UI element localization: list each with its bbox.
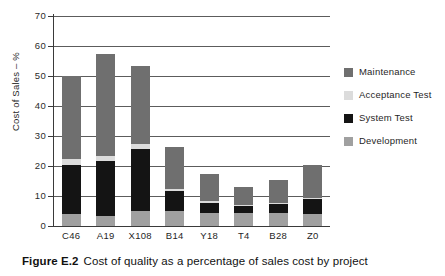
bar-segment-Y18-maintenance[interactable] <box>200 174 219 201</box>
bar-B14[interactable] <box>165 16 184 226</box>
bar-segment-X108-development[interactable] <box>131 211 150 226</box>
legend-label: Development <box>359 136 417 146</box>
bar-Y18[interactable] <box>200 16 219 226</box>
bar-segment-Y18-system-test[interactable] <box>200 203 219 213</box>
legend-label: System Test <box>359 113 413 123</box>
bar-segment-B28-maintenance[interactable] <box>269 180 288 203</box>
legend-swatch-icon <box>344 91 353 100</box>
bar-segment-C46-maintenance[interactable] <box>62 76 81 159</box>
gridline-0 <box>54 226 330 227</box>
bar-segment-A19-system-test[interactable] <box>96 161 115 216</box>
y-tick-label-70: 70 <box>18 11 46 21</box>
bar-segment-Y18-acceptance-test[interactable] <box>200 201 219 203</box>
bars-and-gridlines <box>54 16 330 226</box>
legend-item-maintenance[interactable]: Maintenance <box>344 62 444 82</box>
bar-B28[interactable] <box>269 16 288 226</box>
bar-segment-Z0-development[interactable] <box>303 214 322 226</box>
y-tick-label-40: 40 <box>18 101 46 111</box>
bar-segment-T4-system-test[interactable] <box>234 206 253 213</box>
bar-X108[interactable] <box>131 16 150 226</box>
bar-segment-B14-development[interactable] <box>165 211 184 226</box>
figure-caption: Figure E.2Cost of quality as a percentag… <box>22 254 442 268</box>
legend-item-development[interactable]: Development <box>344 131 444 151</box>
legend-item-system-test[interactable]: System Test <box>344 108 444 128</box>
bar-segment-T4-development[interactable] <box>234 213 253 226</box>
bar-T4[interactable] <box>234 16 253 226</box>
legend-label: Maintenance <box>359 67 416 77</box>
y-tick-label-20: 20 <box>18 161 46 171</box>
legend-swatch-icon <box>344 137 353 146</box>
y-tick-mark-70 <box>48 16 54 17</box>
legend-swatch-icon <box>344 114 353 123</box>
bar-segment-Z0-maintenance[interactable] <box>303 165 322 198</box>
y-tick-label-10: 10 <box>18 191 46 201</box>
y-tick-label-50: 50 <box>18 71 46 81</box>
bar-segment-A19-acceptance-test[interactable] <box>96 156 115 161</box>
bar-A19[interactable] <box>96 16 115 226</box>
y-axis-title: Cost of Sales – % <box>10 37 21 147</box>
bar-segment-B28-development[interactable] <box>269 213 288 227</box>
bar-segment-B14-maintenance[interactable] <box>165 147 184 188</box>
bar-Z0[interactable] <box>303 16 322 226</box>
bar-segment-X108-maintenance[interactable] <box>131 66 150 144</box>
legend-item-acceptance-test[interactable]: Acceptance Test <box>344 85 444 105</box>
legend-swatch-icon <box>344 68 353 77</box>
bar-segment-Z0-acceptance-test[interactable] <box>303 198 322 200</box>
x-tick-label-Z0: Z0 <box>291 231 335 241</box>
bar-segment-B14-acceptance-test[interactable] <box>165 189 184 191</box>
legend-label: Acceptance Test <box>359 90 432 100</box>
figure-caption-text: Cost of quality as a percentage of sales… <box>84 255 368 267</box>
y-tick-mark-30 <box>48 136 54 137</box>
y-tick-mark-0 <box>48 226 54 227</box>
y-tick-mark-50 <box>48 76 54 77</box>
bar-segment-T4-acceptance-test[interactable] <box>234 205 253 207</box>
y-tick-mark-10 <box>48 196 54 197</box>
y-tick-mark-20 <box>48 166 54 167</box>
bar-segment-Y18-development[interactable] <box>200 213 219 227</box>
bar-C46[interactable] <box>62 16 81 226</box>
bar-segment-Z0-system-test[interactable] <box>303 199 322 214</box>
figure-caption-label: Figure E.2 <box>22 255 79 267</box>
chart-legend: MaintenanceAcceptance TestSystem TestDev… <box>344 62 444 154</box>
y-tick-label-0: 0 <box>18 221 46 231</box>
bar-segment-C46-acceptance-test[interactable] <box>62 159 81 165</box>
bar-segment-A19-development[interactable] <box>96 216 115 227</box>
bar-segment-B14-system-test[interactable] <box>165 191 184 211</box>
y-tick-label-30: 30 <box>18 131 46 141</box>
bar-segment-B28-system-test[interactable] <box>269 204 288 213</box>
y-tick-mark-60 <box>48 46 54 47</box>
y-tick-label-60: 60 <box>18 41 46 51</box>
bar-segment-A19-maintenance[interactable] <box>96 54 115 156</box>
figure-container: 010203040506070 Cost of Sales – % C46A19… <box>0 0 445 276</box>
bar-segment-C46-development[interactable] <box>62 214 81 226</box>
bar-segment-B28-acceptance-test[interactable] <box>269 203 288 204</box>
bar-segment-C46-system-test[interactable] <box>62 165 81 214</box>
bar-segment-X108-acceptance-test[interactable] <box>131 144 150 149</box>
y-tick-mark-40 <box>48 106 54 107</box>
bar-segment-X108-system-test[interactable] <box>131 149 150 211</box>
bar-segment-T4-maintenance[interactable] <box>234 187 253 205</box>
